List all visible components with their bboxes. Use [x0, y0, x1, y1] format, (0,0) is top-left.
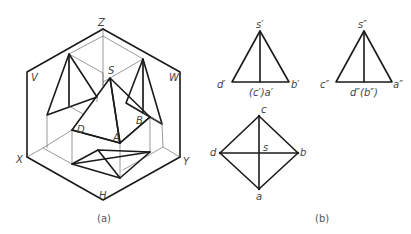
h-proj-left	[43, 148, 72, 164]
figure-b: s′ d′ (c′)a′ b′ s″ c″ d″(b″) a″ c d s b	[210, 19, 403, 224]
front-view: s′ d′ (c′)a′ b′	[217, 19, 300, 98]
top-vertex-c	[258, 115, 260, 117]
y-projector	[162, 124, 180, 157]
top-vertex-a	[258, 188, 260, 190]
top-s-label: s	[263, 142, 268, 153]
y-axis-label: Y	[183, 156, 190, 167]
front-middle-label: (c′)a′	[249, 87, 274, 98]
x-projector	[27, 130, 72, 157]
pyramid-edge-ab	[120, 117, 150, 143]
side-right-label: a″	[393, 79, 403, 90]
side-view: s″ c″ d″(b″) a″	[320, 19, 403, 98]
top-vertex-b	[297, 152, 299, 154]
figure-a: Z V W X Y H S D A B (a)	[15, 17, 190, 224]
front-right-label: b′	[291, 79, 300, 90]
h-projection-diagonal-2	[98, 150, 120, 178]
v-plane-label: V	[31, 72, 39, 83]
side-middle-label: d″(b″)	[350, 87, 378, 98]
v-to-base	[69, 106, 83, 114]
top-b-label: b	[300, 147, 306, 158]
x-axis-label: X	[15, 154, 24, 165]
z-axis-label: Z	[97, 17, 106, 28]
side-left-label: c″	[320, 79, 329, 90]
w-projection-triangle	[126, 59, 162, 124]
diagram-canvas: Z V W X Y H S D A B (a) s′ d′ (c′)a′ b′ …	[0, 0, 411, 234]
v-projector	[69, 54, 103, 73]
v-plane-outline	[27, 29, 103, 157]
top-view: c d s b a	[210, 104, 306, 202]
vertex-b-label: B	[136, 115, 143, 126]
top-c-label: c	[261, 104, 267, 115]
w-plane-label: W	[169, 72, 180, 83]
front-left-label: d′	[217, 79, 226, 90]
top-vertex-d	[219, 152, 221, 154]
vertex-d-label: D	[77, 124, 85, 135]
side-apex-label: s″	[358, 19, 367, 30]
front-apex-label: s′	[256, 19, 264, 30]
top-d-label: d	[210, 147, 217, 158]
figure-b-caption: (b)	[315, 213, 329, 224]
figure-a-caption: (a)	[97, 213, 111, 224]
vertex-a-label: A	[112, 132, 120, 143]
top-a-label: a	[256, 191, 262, 202]
h-plane-label: H	[99, 190, 107, 201]
vertex-s-label: S	[108, 65, 115, 76]
